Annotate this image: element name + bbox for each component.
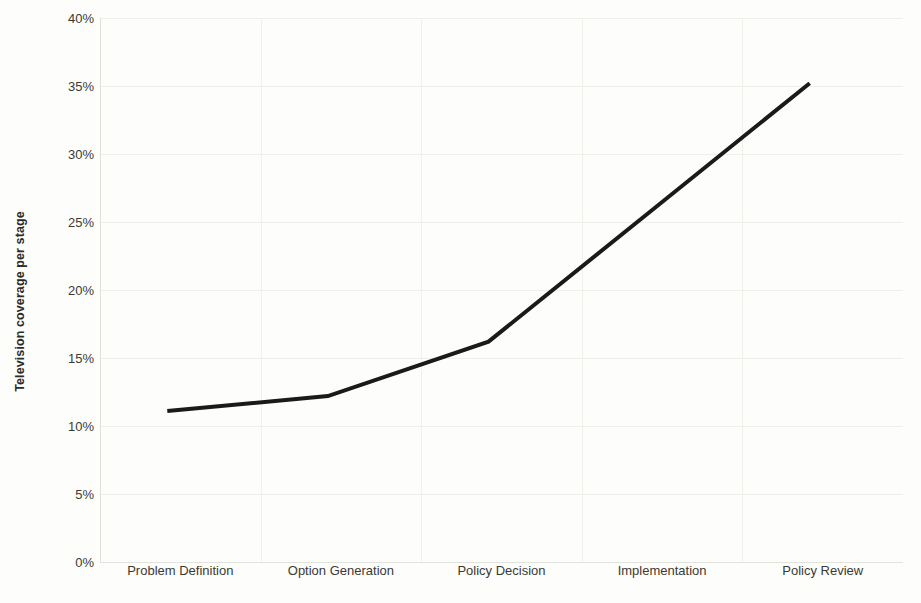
y-axis-tick-label: 20% bbox=[36, 283, 94, 298]
x-axis-tick-labels: Problem DefinitionOption GenerationPolic… bbox=[100, 563, 903, 595]
x-axis-tick-label: Policy Decision bbox=[457, 563, 545, 578]
y-axis-tick-label: 30% bbox=[36, 147, 94, 162]
y-axis-tick-label: 5% bbox=[36, 487, 94, 502]
y-axis-tick-label: 25% bbox=[36, 215, 94, 230]
x-axis-tick-label: Option Generation bbox=[288, 563, 394, 578]
data-line-television-coverage bbox=[167, 83, 809, 411]
y-axis-tick-labels: 0%5%10%15%20%25%30%35%40% bbox=[36, 0, 94, 603]
line-chart: Television coverage per stage 0%5%10%15%… bbox=[0, 0, 921, 603]
x-axis-tick-label: Policy Review bbox=[782, 563, 863, 578]
x-axis-tick-label: Problem Definition bbox=[127, 563, 233, 578]
y-axis-tick-label: 40% bbox=[36, 11, 94, 26]
x-axis-tick-label: Implementation bbox=[618, 563, 707, 578]
y-axis-tick-label: 15% bbox=[36, 351, 94, 366]
plot-area bbox=[100, 18, 903, 562]
y-axis-tick-label: 0% bbox=[36, 555, 94, 570]
y-axis-title: Television coverage per stage bbox=[0, 0, 40, 603]
y-axis-tick-label: 10% bbox=[36, 419, 94, 434]
series-layer bbox=[100, 18, 903, 562]
y-axis-tick-label: 35% bbox=[36, 79, 94, 94]
